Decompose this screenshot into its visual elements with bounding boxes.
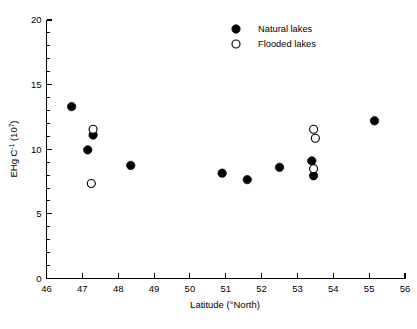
x-axis-tick-label: 47: [77, 283, 88, 294]
y-axis-title-end: ): [8, 120, 19, 123]
x-axis-tick-label: 46: [41, 283, 52, 294]
x-axis-tick-label: 49: [149, 283, 160, 294]
data-point: [127, 161, 135, 169]
y-axis-tick-label: 15: [31, 79, 42, 90]
y-axis-title-main: EHg C: [8, 149, 19, 177]
data-point: [310, 165, 318, 173]
data-points-layer: [67, 102, 378, 187]
series-flooded-lakes: [87, 125, 319, 187]
x-axis-tick-label: 52: [256, 283, 267, 294]
y-axis-tick-label: 5: [36, 208, 41, 219]
data-point: [311, 134, 319, 142]
plot-canvas: 05101520 4647484950515253545556 Latitude…: [0, 0, 417, 329]
data-point: [67, 102, 75, 110]
x-axis-major-ticks: [47, 273, 406, 279]
data-point: [308, 157, 316, 165]
x-axis-tick-label: 51: [220, 283, 231, 294]
data-point: [310, 125, 318, 133]
y-axis-title: EHg C-1 (107): [8, 120, 19, 177]
legend-marker-open-circle: [232, 40, 240, 48]
x-axis-tick-label: 54: [328, 283, 339, 294]
x-axis-tick-label: 50: [185, 283, 196, 294]
y-axis-tick-label: 10: [31, 144, 42, 155]
x-axis-tick-label: 56: [400, 283, 411, 294]
legend-label: Natural lakes: [258, 24, 313, 34]
x-axis-tick-labels: 4647484950515253545556: [41, 283, 410, 294]
y-axis-title-mid: (10: [8, 127, 19, 143]
legend-label: Flooded lakes: [258, 39, 316, 49]
data-point: [243, 175, 251, 183]
legend-marker-filled-circle: [232, 25, 240, 33]
data-point: [89, 125, 97, 133]
data-point: [87, 180, 95, 188]
series-natural-lakes: [67, 102, 378, 183]
legend: Natural lakesFlooded lakes: [232, 24, 316, 49]
data-point: [275, 163, 283, 171]
data-point: [84, 146, 92, 154]
x-axis-tick-label: 55: [364, 283, 375, 294]
y-axis-tick-labels: 05101520: [31, 14, 42, 284]
data-point: [218, 169, 226, 177]
x-axis-tick-label: 48: [113, 283, 124, 294]
x-axis-tick-label: 53: [292, 283, 303, 294]
data-point: [370, 117, 378, 125]
scatter-plot-figure: 05101520 4647484950515253545556 Latitude…: [0, 0, 417, 329]
x-axis-title: Latitude (°North): [190, 299, 260, 310]
y-axis-tick-label: 20: [31, 14, 42, 25]
